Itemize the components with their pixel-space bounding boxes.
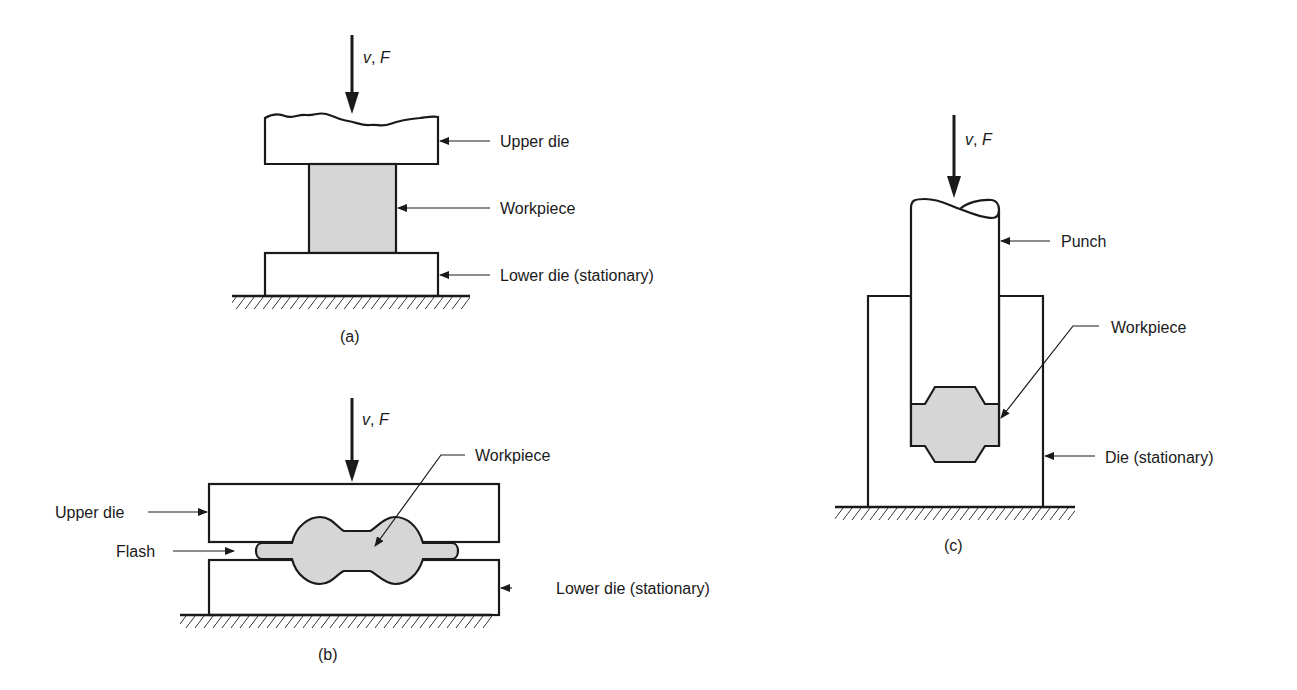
label-punch: Punch (1061, 233, 1106, 250)
ground-hatch (180, 615, 492, 628)
panel-c: v, F Punch Workpiece Die (stationary) (c… (835, 115, 1213, 554)
label-flash: Flash (116, 543, 155, 560)
force-arrow-icon (345, 398, 359, 482)
workpiece (309, 164, 396, 253)
label-lower-die: Lower die (stationary) (500, 267, 654, 284)
label-die: Die (stationary) (1105, 449, 1213, 466)
force-label: v, F (965, 131, 993, 148)
label-workpiece: Workpiece (1111, 319, 1186, 336)
forging-diagram-figure: v, F Upper die Workpiece Lower die (stat… (0, 0, 1297, 690)
label-upper-die: Upper die (500, 133, 569, 150)
caption-c: (c) (944, 537, 963, 554)
label-upper-die: Upper die (55, 504, 124, 521)
panel-a: v, F Upper die Workpiece Lower die (stat… (232, 35, 654, 345)
label-lower-die: Lower die (stationary) (556, 580, 710, 597)
force-label: v, F (363, 49, 391, 66)
force-arrow-icon (947, 115, 961, 198)
force-label: v, F (362, 411, 390, 428)
lower-die (265, 253, 438, 296)
ground-hatch (232, 296, 470, 309)
caption-a: (a) (340, 328, 360, 345)
punch (911, 199, 999, 404)
label-workpiece: Workpiece (500, 200, 575, 217)
upper-die (265, 113, 438, 164)
panel-b: v, F Upper die Flash Workpiece Lower die… (55, 398, 710, 663)
ground-hatch (835, 507, 1075, 520)
label-workpiece: Workpiece (475, 447, 550, 464)
force-arrow-icon (345, 35, 359, 114)
caption-b: (b) (318, 646, 338, 663)
